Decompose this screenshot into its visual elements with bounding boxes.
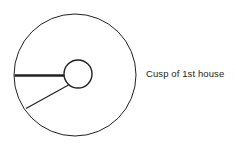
inner-circle (64, 60, 92, 88)
house-divider-line (26, 85, 69, 109)
diagram-root: Cusp of 1st house (0, 0, 236, 150)
cusp-first-house-label: Cusp of 1st house (146, 68, 224, 80)
